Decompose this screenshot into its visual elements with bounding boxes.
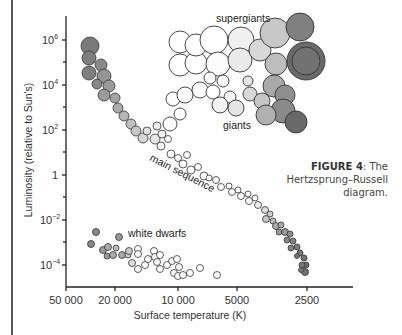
figure-caption: FIGURE 4: The Hertzsprung–Russell diagra… xyxy=(258,160,388,199)
y-tick-1e-4: 10−4 xyxy=(40,258,60,271)
y-axis-title: Luminosity (relative to Sun's) xyxy=(22,83,34,217)
x-tick-2500: 2500 xyxy=(295,294,319,306)
x-tick-20000: 20 000 xyxy=(98,294,132,306)
supergiants-label: supergiants xyxy=(216,12,270,24)
x-axis-title: Surface temperature (K) xyxy=(134,309,247,321)
y-tick-labels: 106 104 102 1 10−2 10−4 xyxy=(40,33,60,271)
figure-number: FIGURE 4 xyxy=(311,161,363,172)
y-tick-1e4: 104 xyxy=(42,78,58,91)
y-tick-1e6: 106 xyxy=(42,33,58,46)
y-tick-1e-2: 10−2 xyxy=(40,213,60,226)
y-tick-1: 1 xyxy=(52,169,58,181)
white-dwarfs-label: white dwarfs xyxy=(127,227,186,239)
x-tick-labels: 50 000 20 000 10 000 5000 2500 xyxy=(49,294,319,306)
x-tick-50000: 50 000 xyxy=(49,294,83,306)
y-tick-1e2: 102 xyxy=(42,123,58,136)
giants-label: giants xyxy=(223,119,251,131)
x-tick-5000: 5000 xyxy=(225,294,249,306)
x-tick-10000: 10 000 xyxy=(161,294,195,306)
